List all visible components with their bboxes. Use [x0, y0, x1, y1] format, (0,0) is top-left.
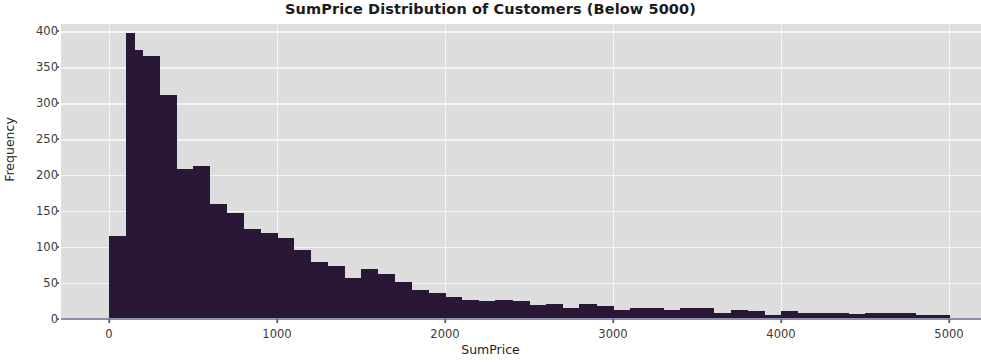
y-tick-label: 100: [14, 240, 58, 254]
y-tick-mark: [56, 66, 59, 68]
y-tick-label: 350: [14, 60, 58, 74]
y-tick-mark: [56, 138, 59, 140]
x-tick-label: 1000: [262, 327, 291, 341]
y-axis-label: Frequency: [2, 85, 17, 215]
x-tick-mark: [276, 319, 278, 323]
y-tick-label: 250: [14, 132, 58, 146]
y-tick-label: 400: [14, 24, 58, 38]
y-tick-mark: [56, 246, 59, 248]
y-tick-label: 150: [14, 204, 58, 218]
y-tick-mark: [56, 210, 59, 212]
y-tick-label: 200: [14, 168, 58, 182]
y-tick-mark: [56, 174, 59, 176]
x-tick-mark: [948, 319, 950, 323]
y-tick-mark: [56, 102, 59, 104]
x-tick-label: 3000: [598, 327, 627, 341]
x-tick-label: 4000: [766, 327, 795, 341]
histogram-bars: [61, 24, 981, 319]
y-tick-label: 0: [14, 312, 58, 326]
y-tick-label: 300: [14, 96, 58, 110]
y-tick-mark: [56, 318, 59, 320]
x-tick-label: 5000: [934, 327, 963, 341]
histogram-figure: SumPrice Distribution of Customers (Belo…: [0, 0, 981, 363]
x-tick-mark: [780, 319, 782, 323]
y-tick-label: 50: [14, 276, 58, 290]
x-tick-mark: [108, 319, 110, 323]
y-axis-ticks: 050100150200250300350400: [11, 24, 58, 319]
y-tick-mark: [56, 282, 59, 284]
x-tick-label: 2000: [430, 327, 459, 341]
plot-area: [61, 24, 981, 319]
x-tick-mark: [612, 319, 614, 323]
chart-title: SumPrice Distribution of Customers (Belo…: [0, 1, 981, 17]
x-tick-mark: [444, 319, 446, 323]
x-axis-ticks: 010002000300040005000: [61, 319, 981, 343]
y-tick-mark: [56, 30, 59, 32]
x-axis-label: SumPrice: [0, 342, 981, 357]
x-tick-label: 0: [105, 327, 112, 341]
